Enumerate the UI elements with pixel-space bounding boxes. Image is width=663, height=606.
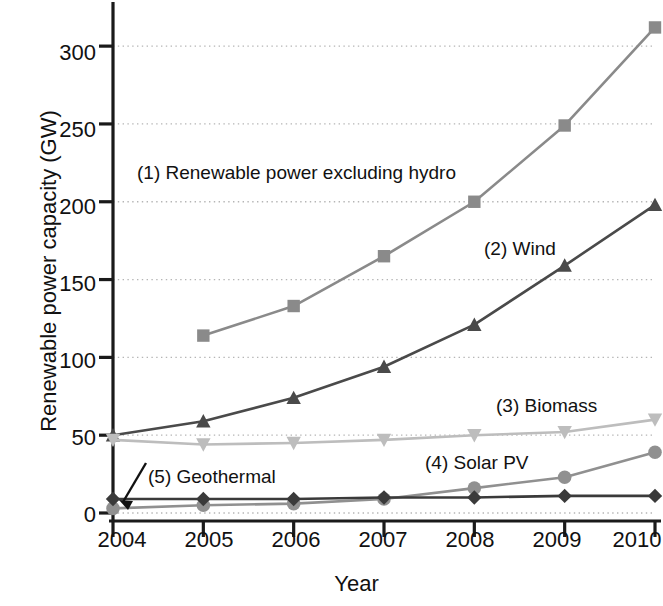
x-tick-label: 2009	[522, 527, 592, 553]
x-tick-label: 2005	[174, 527, 244, 553]
x-axis-title-text: Year	[334, 571, 378, 597]
x-tick-label: 2004	[87, 527, 157, 553]
x-tick-label: 2006	[261, 527, 331, 553]
x-tick-label: 2008	[435, 527, 505, 553]
x-axis-title: Year	[0, 571, 663, 597]
chart-figure: Renewable power capacity (GW) 300 250 20…	[0, 0, 663, 606]
series-annotation-renewable-excl-hydro: (1) Renewable power excluding hydro	[137, 162, 456, 184]
series-layer	[106, 21, 662, 515]
annotation-leader-line	[119, 463, 146, 510]
plot-area	[0, 0, 663, 606]
x-tick-label: 2010	[602, 527, 663, 553]
series-annotation-solar-pv: (4) Solar PV	[425, 452, 528, 474]
series-annotation-wind: (2) Wind	[484, 238, 556, 260]
series-annotation-geothermal: (5) Geothermal	[148, 466, 276, 488]
x-tick-label: 2007	[348, 527, 418, 553]
series-annotation-biomass: (3) Biomass	[496, 395, 597, 417]
